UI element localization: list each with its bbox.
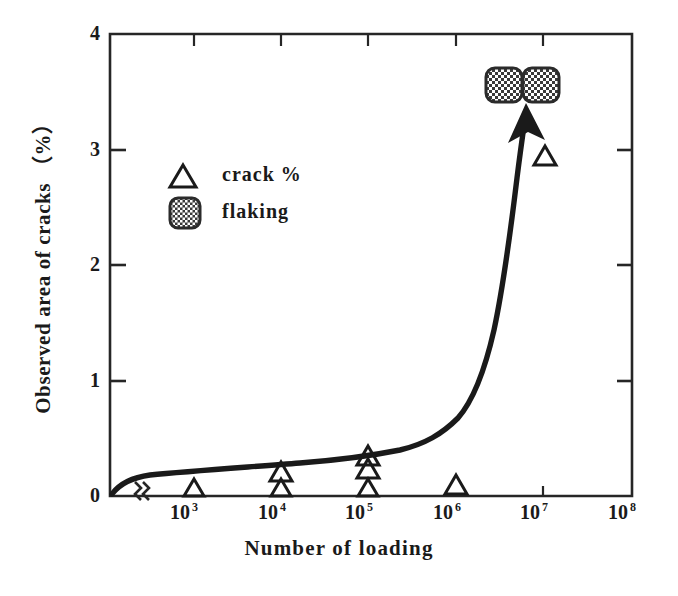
x-tick-base: 10	[345, 501, 365, 523]
y-tick-label-2: 2	[70, 253, 100, 276]
x-tick-exponent: 5	[367, 500, 373, 514]
flaking-marker	[523, 68, 559, 102]
x-tick-base: 10	[433, 501, 453, 523]
legend-label-flaking: flaking	[222, 200, 289, 223]
chart-figure: Observed area of cracks （%） Number of lo…	[0, 0, 678, 596]
x-tick-label-1e3: 103	[170, 500, 198, 524]
data-point-triangle	[534, 146, 556, 165]
flaking-marker-group	[486, 68, 559, 102]
chart-svg	[0, 0, 678, 596]
x-tick-exponent: 8	[630, 500, 636, 514]
top-axis-ticks	[194, 34, 543, 46]
plot-frame	[110, 34, 632, 496]
up-arrow-annotation	[508, 103, 545, 143]
x-tick-base: 10	[170, 501, 190, 523]
data-point-triangle	[358, 479, 378, 496]
x-tick-exponent: 6	[455, 500, 461, 514]
x-tick-exponent: 7	[542, 500, 548, 514]
y-tick-label-1: 1	[70, 369, 100, 392]
x-tick-label-1e8: 108	[608, 500, 636, 524]
y-tick-label-3: 3	[70, 138, 100, 161]
flaking-marker	[486, 68, 522, 102]
y-tick-label-0: 0	[70, 484, 100, 507]
legend-triangle-icon	[170, 165, 196, 187]
x-tick-base: 10	[520, 501, 540, 523]
x-tick-label-1e6: 106	[433, 500, 461, 524]
x-tick-base: 10	[258, 501, 278, 523]
x-tick-exponent: 4	[280, 500, 286, 514]
x-tick-exponent: 3	[192, 500, 198, 514]
trend-curve	[112, 112, 526, 494]
x-axis-title: Number of loading	[0, 536, 678, 561]
x-tick-label-1e4: 104	[258, 500, 286, 524]
data-point-triangle	[445, 475, 467, 494]
data-point-triangle	[184, 479, 204, 496]
x-tick-label-1e7: 107	[520, 500, 548, 524]
crack-data-markers	[184, 146, 556, 496]
legend-label-crack: crack %	[222, 163, 302, 186]
legend-flaking-icon	[170, 198, 200, 228]
legend-markers	[170, 165, 200, 228]
y-tick-label-4: 4	[70, 22, 100, 45]
x-tick-label-1e5: 105	[345, 500, 373, 524]
left-axis-ticks	[110, 150, 126, 381]
right-axis-ticks	[617, 150, 632, 381]
x-tick-base: 10	[608, 501, 628, 523]
y-axis-title: Observed area of cracks （%）	[26, 38, 56, 488]
